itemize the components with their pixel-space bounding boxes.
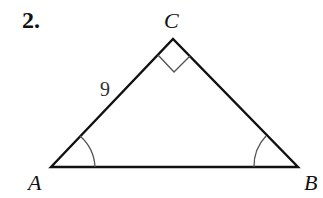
triangle-abc (51, 39, 298, 167)
vertex-label-a: A (28, 172, 41, 194)
problem-number: 2. (22, 8, 40, 32)
angle-arc-a (80, 136, 95, 167)
triangle-figure: 2. C A B 9 (0, 0, 323, 198)
side-label-ac: 9 (100, 79, 110, 99)
angle-arc-b (254, 136, 266, 167)
right-angle-marker (158, 55, 190, 72)
vertex-label-c: C (164, 10, 179, 32)
vertex-label-b: B (304, 172, 317, 194)
triangle-diagram (0, 0, 323, 198)
